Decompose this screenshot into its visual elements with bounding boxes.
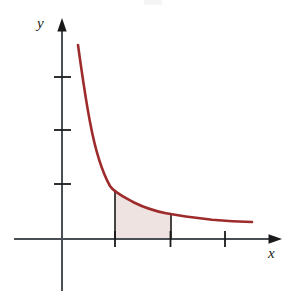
y-axis-arrow-icon: [57, 18, 66, 32]
shaded-region-group: [115, 192, 171, 239]
y-axis-group: [54, 18, 71, 291]
area-under-curve-texture: [115, 192, 171, 239]
x-axis-arrow-icon: [269, 234, 283, 243]
plot-canvas: [0, 0, 294, 291]
x-axis-label: x: [268, 246, 275, 261]
decaying-reciprocal-curve: [78, 45, 252, 222]
y-axis-label: y: [37, 16, 44, 31]
figure-root: y x: [0, 0, 294, 291]
